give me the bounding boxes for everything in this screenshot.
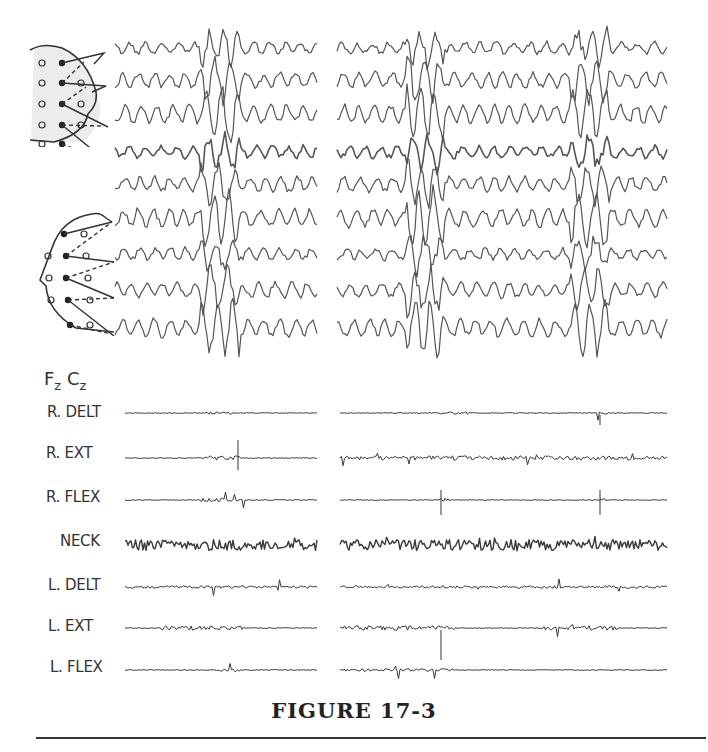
eeg-trace-ch8-seg2: [337, 264, 667, 318]
emg-trace-ch1-seg1: [125, 412, 317, 414]
caption-rule-divider: [36, 737, 706, 739]
emg-trace-ch7-seg2: [340, 666, 667, 679]
emg-trace-ch5-seg1: [125, 580, 317, 596]
figure-17-3: Fz Cz R. DELT R. EXT R. FLEX NECK L. DEL…: [0, 0, 708, 752]
eeg-trace-ch2-seg1: [115, 56, 317, 106]
eeg-trace-ch3-seg1: [115, 87, 317, 143]
emg-trace-ch6-seg2: [340, 625, 667, 637]
eeg-emg-trace-plot: [0, 0, 708, 700]
emg-trace-ch7-seg1: [125, 664, 317, 672]
eeg-trace-ch8-seg1: [115, 265, 317, 316]
eeg-trace-ch5-seg2: [337, 159, 667, 208]
eeg-trace-ch4-seg1: [115, 132, 317, 172]
eeg-trace-ch9-seg2: [337, 299, 667, 357]
emg-trace-ch3-seg2: [340, 498, 667, 501]
eeg-trace-ch7-seg2: [337, 235, 667, 277]
emg-trace-ch1-seg2: [340, 412, 667, 421]
eeg-trace-ch3-seg2: [337, 84, 667, 141]
figure-caption: FIGURE 17-3: [0, 698, 708, 723]
emg-trace-ch2-seg1: [125, 456, 317, 460]
eeg-trace-ch9-seg1: [115, 298, 317, 356]
emg-trace-ch4-seg1: [125, 538, 317, 550]
emg-trace-ch3-seg1: [125, 492, 317, 508]
eeg-trace-ch7-seg1: [115, 240, 317, 271]
emg-trace-ch4-seg2: [340, 536, 667, 550]
eeg-trace-ch2-seg2: [337, 56, 667, 105]
eeg-trace-ch4-seg2: [337, 134, 667, 175]
emg-trace-ch6-seg1: [125, 626, 317, 630]
eeg-trace-ch1-seg2: [337, 26, 667, 70]
emg-trace-ch2-seg2: [340, 453, 667, 466]
emg-trace-ch5-seg2: [340, 579, 667, 591]
eeg-trace-ch6-seg1: [115, 189, 317, 247]
eeg-trace-ch6-seg2: [337, 185, 667, 248]
